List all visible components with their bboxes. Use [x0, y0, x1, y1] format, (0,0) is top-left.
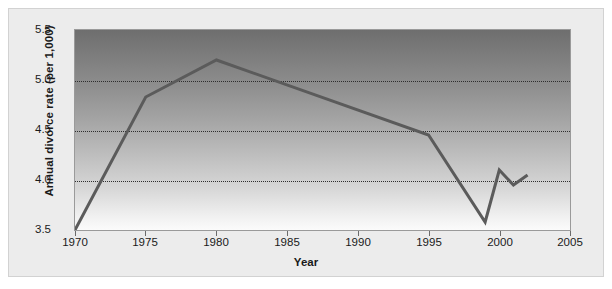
x-tick-label-1980: 1980 — [186, 237, 246, 249]
y-tick-label-5-5: 5.5 — [11, 24, 51, 36]
plot-area — [74, 29, 571, 231]
data-series-divorce-rate — [75, 30, 570, 230]
x-tick-label-1985: 1985 — [257, 237, 317, 249]
x-tick-label-1995: 1995 — [399, 237, 459, 249]
x-axis-title: Year — [9, 256, 603, 268]
chart-figure: Annual divorce rate (per 1,000) 5.5 5.0 … — [8, 8, 604, 277]
x-tick-label-1975: 1975 — [115, 237, 175, 249]
y-tick-label-3-5: 3.5 — [11, 224, 51, 236]
x-tick-label-1970: 1970 — [45, 237, 105, 249]
y-tick-label-4-0: 4.0 — [11, 174, 51, 186]
y-tick-label-5-0: 5.0 — [11, 74, 51, 86]
x-tick-label-2000: 2000 — [470, 237, 530, 249]
x-tick-label-2005: 2005 — [540, 237, 600, 249]
y-tick-label-4-5: 4.5 — [11, 124, 51, 136]
x-tick-label-1990: 1990 — [328, 237, 388, 249]
